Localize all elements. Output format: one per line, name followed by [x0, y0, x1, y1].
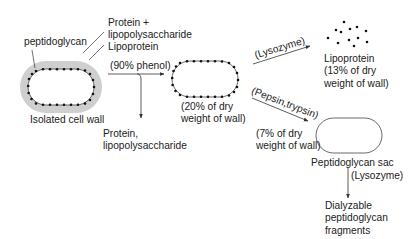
- lipoprotein-label: Lipoprotein (13% of dry weight of wall): [324, 53, 389, 90]
- peptidoglycan-sac-label: Peptidoglycan sac: [311, 157, 394, 170]
- peptidoglycan-sac-shape: [316, 118, 382, 153]
- phenol-edge-label: (90% phenol): [110, 60, 171, 73]
- fragments-label: Dialyzable peptidoglycan fragments: [325, 200, 388, 237]
- protein-lps-label: Protein + lipopolysaccharide: [108, 17, 192, 41]
- extract-branch-arrow: [137, 74, 141, 118]
- lipoprotein-dots: [327, 21, 369, 48]
- phenol-extract-label: Protein, lipopolysaccharide: [103, 128, 187, 152]
- peptidoglycan-sac-note: (7% of dry weight of wall): [256, 128, 321, 152]
- lipoprotein-callout-label: Lipoprotein: [108, 41, 158, 54]
- lipoprotein-leader: [89, 45, 104, 60]
- isolated-cell-wall-label: Isolated cell wall: [30, 114, 104, 127]
- phenol-residue-shape: [171, 60, 239, 98]
- isolated-cell-wall-shape: [20, 61, 102, 113]
- lysozyme-edge-label-2: (Lysozyme): [351, 170, 403, 183]
- phenol-residue-label: (20% of dry weight of wall): [181, 101, 246, 125]
- peptidoglycan-label: peptidoglycan: [24, 36, 87, 49]
- cell-wall-fractionation-diagram: peptidoglycan Protein + lipopolysacchari…: [0, 0, 412, 239]
- phenol-arrows: [108, 74, 164, 118]
